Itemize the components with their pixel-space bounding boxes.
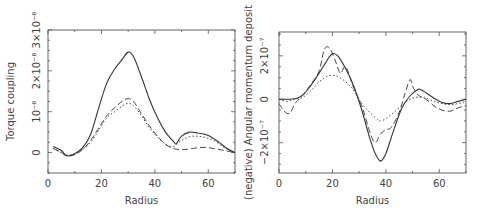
chart-figure: 0204060010⁻⁶2×10⁻⁶3×10⁻⁶RadiusTorque cou… [0, 0, 486, 211]
x-axis-label: Radius [356, 195, 390, 206]
plot-frame [48, 30, 235, 173]
angular-momentum-panel: 0204060−2×10⁻⁷02×10⁻⁷Radius(negative) An… [243, 5, 466, 206]
torque-coupling-panel: 0204060010⁻⁶2×10⁻⁶3×10⁻⁶RadiusTorque cou… [5, 12, 235, 206]
series-dotted-line [279, 75, 466, 121]
x-tick-label: 0 [276, 178, 282, 189]
x-tick-label: 40 [379, 178, 392, 189]
y-axis-label: (negative) Angular momentum deposit [243, 5, 254, 200]
x-tick-label: 60 [202, 178, 215, 189]
x-tick-label: 20 [326, 178, 339, 189]
x-tick-label: 40 [148, 178, 161, 189]
x-axis-label: Radius [125, 195, 159, 206]
y-tick-label: 2×10⁻⁷ [259, 37, 270, 74]
y-tick-label: 2×10⁻⁶ [31, 52, 42, 89]
y-tick-label: 3×10⁻⁶ [31, 12, 42, 49]
y-tick-label: 0 [259, 96, 270, 102]
y-axis-label: Torque coupling [5, 62, 16, 142]
y-tick-label: 0 [31, 149, 42, 155]
series-dashed-line [53, 99, 235, 156]
series-solid-line [279, 53, 466, 161]
series-solid-line [53, 52, 235, 156]
x-tick-label: 20 [95, 178, 108, 189]
y-tick-label: −2×10⁻⁷ [259, 120, 270, 165]
x-tick-label: 0 [45, 178, 51, 189]
y-tick-label: 10⁻⁶ [31, 101, 42, 123]
x-tick-label: 60 [433, 178, 446, 189]
series-dotted-line [53, 104, 235, 156]
